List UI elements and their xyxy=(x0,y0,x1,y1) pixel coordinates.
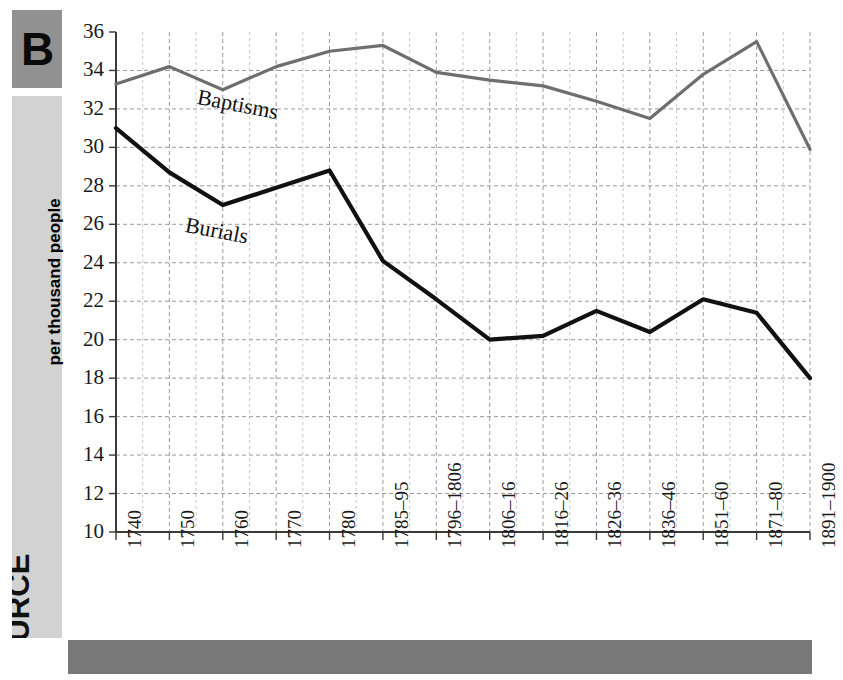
y-axis-ticks xyxy=(109,32,116,532)
x-tick-label: 1891–1900 xyxy=(818,463,840,549)
x-tick-label: 1750 xyxy=(177,510,199,548)
y-tick-label: 26 xyxy=(58,213,104,234)
y-tick-label: 22 xyxy=(58,290,104,311)
y-tick-label: 14 xyxy=(58,444,104,465)
y-tick-label: 30 xyxy=(58,136,104,157)
x-tick-label: 1851–60 xyxy=(711,482,733,549)
x-tick-label: 1785–95 xyxy=(391,482,413,549)
y-tick-label: 28 xyxy=(58,175,104,196)
chart-container: 3634323028262422201816141210 17401750176… xyxy=(0,0,843,680)
y-tick-label: 24 xyxy=(58,252,104,273)
y-tick-label: 36 xyxy=(58,21,104,42)
x-tick-label: 1871–80 xyxy=(765,482,787,549)
x-tick-label: 1780 xyxy=(338,510,360,548)
y-tick-label: 10 xyxy=(58,521,104,542)
chart-plot xyxy=(0,0,843,680)
x-tick-label: 1836–46 xyxy=(658,482,680,549)
x-tick-label: 1760 xyxy=(231,510,253,548)
y-tick-label: 16 xyxy=(58,406,104,427)
y-tick-label: 34 xyxy=(58,59,104,80)
x-tick-label: 1770 xyxy=(284,510,306,548)
x-tick-label: 1806–16 xyxy=(498,482,520,549)
x-tick-label: 1796–1806 xyxy=(444,463,466,549)
x-tick-label: 1740 xyxy=(124,510,146,548)
x-tick-label: 1826–36 xyxy=(604,482,626,549)
y-tick-label: 12 xyxy=(58,483,104,504)
y-tick-label: 20 xyxy=(58,329,104,350)
y-tick-label: 32 xyxy=(58,98,104,119)
x-tick-label: 1816–26 xyxy=(551,482,573,549)
y-tick-label: 18 xyxy=(58,367,104,388)
